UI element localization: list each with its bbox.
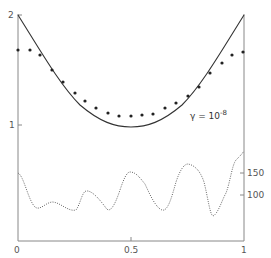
y-left-label-2: 2 — [8, 10, 14, 20]
x-label-1: 1 — [241, 245, 247, 255]
gamma-annotation: γ = 10-8 — [190, 109, 227, 121]
y-right-label-150: 150 — [247, 168, 264, 178]
dot-series — [16, 48, 244, 117]
x-label-0: 0 — [14, 245, 20, 255]
gamma-annotation-exp: -8 — [220, 109, 227, 117]
x-label-mid: 0.5 — [124, 245, 138, 255]
chart-canvas: 2 1 0 0.5 1 150 100 γ = 10-8 — [0, 0, 271, 258]
y-left-label-1: 1 — [9, 120, 15, 130]
gamma-annotation-base: γ = 10 — [190, 111, 220, 121]
dotted-trace — [18, 151, 244, 216]
y-right-label-100: 100 — [247, 190, 264, 200]
